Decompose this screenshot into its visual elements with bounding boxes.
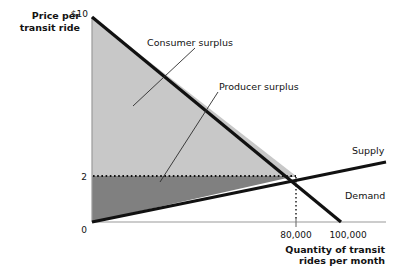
supply-curve-label: Supply [352, 145, 385, 156]
y-tick-label-10: $10 [71, 9, 88, 19]
chart-canvas: Price per transit ride $10 2 0 80,000 10… [0, 0, 397, 275]
demand-curve-label: Demand [345, 190, 385, 201]
y-tick-label-2: 2 [81, 172, 87, 182]
x-tick-label-80000: 80,000 [280, 230, 312, 240]
y-tick-label-0: 0 [81, 225, 87, 235]
caption-sliver [0, 267, 397, 275]
x-tick-label-100000: 100,000 [329, 230, 366, 240]
x-axis-title-line1: Quantity of transit [285, 244, 385, 255]
y-axis-title-line2: transit ride [20, 22, 80, 33]
x-axis-title-line2: rides per month [299, 255, 385, 266]
surplus-chart: Price per transit ride $10 2 0 80,000 10… [0, 0, 397, 275]
consumer-surplus-label: Consumer surplus [147, 37, 233, 48]
producer-surplus-label: Producer surplus [219, 81, 299, 92]
